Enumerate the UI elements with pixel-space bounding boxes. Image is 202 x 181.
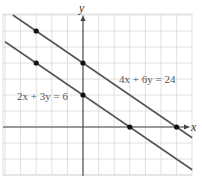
data-point xyxy=(80,60,85,65)
x-axis-arrow-icon xyxy=(184,125,190,130)
data-point xyxy=(80,92,85,97)
equation-label-1: 2x + 3y = 6 xyxy=(17,90,68,102)
equation-label-2: 4x + 6y = 24 xyxy=(119,73,176,85)
y-axis-arrow-icon xyxy=(81,15,86,21)
y-axis-label: y xyxy=(78,1,85,15)
data-point xyxy=(34,28,39,33)
data-point xyxy=(34,60,39,65)
x-axis-label: x xyxy=(190,120,197,134)
chart-plot: x y 2x + 3y = 6 4x + 6y = 24 xyxy=(0,0,202,181)
data-point xyxy=(127,124,132,129)
data-point xyxy=(174,124,179,129)
